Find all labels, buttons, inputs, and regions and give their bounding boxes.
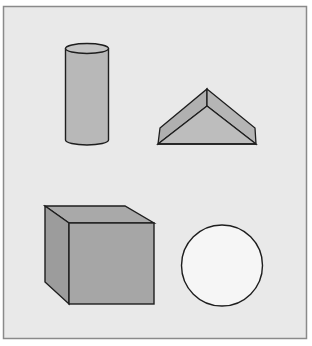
figure-frame [4, 7, 307, 339]
cylinder-body [66, 49, 109, 145]
cube-shape [45, 206, 154, 304]
cylinder-top [66, 44, 109, 54]
shapes-figure [0, 0, 312, 346]
cylinder-shape [66, 44, 109, 146]
figure-canvas [0, 0, 312, 346]
circle-shape [182, 225, 263, 306]
cube-front-face [69, 223, 154, 304]
